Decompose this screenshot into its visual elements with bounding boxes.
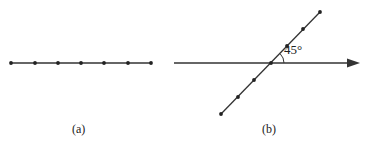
point-marker	[102, 61, 106, 65]
point-marker	[33, 61, 37, 65]
point-marker	[269, 61, 273, 65]
caption-a: (a)	[72, 122, 85, 137]
point-marker	[56, 61, 60, 65]
point-marker	[9, 61, 13, 65]
point-marker	[318, 10, 322, 14]
point-marker	[79, 61, 83, 65]
point-marker	[126, 61, 130, 65]
point-marker	[301, 27, 305, 31]
panel-a-point-line	[9, 61, 153, 65]
point-marker	[219, 112, 223, 116]
point-marker	[236, 95, 240, 99]
panel-b-rotated-line	[174, 10, 360, 116]
point-marker	[252, 78, 256, 82]
arrowhead-icon	[347, 59, 360, 68]
diagram-canvas	[0, 0, 368, 152]
point-marker	[149, 61, 153, 65]
angle-label: 45°	[284, 43, 302, 56]
caption-b: (b)	[262, 122, 276, 137]
